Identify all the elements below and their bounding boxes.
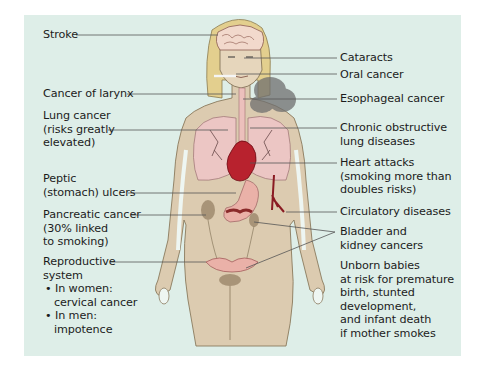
right-lung <box>248 117 291 181</box>
label-heart-attacks: Heart attacks (smoking more than doubles… <box>340 156 451 197</box>
brain <box>216 25 263 50</box>
label-circulatory-diseases: Circulatory diseases <box>340 205 451 219</box>
label-oral-cancer: Oral cancer <box>340 68 404 82</box>
label-lung-cancer: Lung cancer (risks greatly elevated) <box>43 109 115 150</box>
left-hand <box>159 288 169 304</box>
label-bladder-kidney-cancers: Bladder and kidney cancers <box>340 225 423 252</box>
label-peptic-ulcers: Peptic (stomach) ulcers <box>43 172 135 199</box>
pancreas <box>226 210 252 212</box>
label-copd: Chronic obstructive lung diseases <box>340 121 447 148</box>
label-reproductive-system: Reproductive system • In women: cervical… <box>43 255 137 337</box>
label-cancer-of-larynx: Cancer of larynx <box>43 87 134 101</box>
label-esophageal-cancer: Esophageal cancer <box>340 92 444 106</box>
left-kidney <box>201 200 215 220</box>
bladder <box>219 274 241 286</box>
label-cataracts: Cataracts <box>340 51 393 65</box>
label-pancreatic-cancer: Pancreatic cancer (30% linked to smoking… <box>43 208 141 249</box>
smoke-cloud <box>250 77 296 113</box>
label-unborn-babies: Unborn babies at risk for premature birt… <box>340 259 454 341</box>
right-kidney <box>249 213 259 227</box>
right-hand <box>313 288 323 304</box>
label-stroke: Stroke <box>43 28 78 42</box>
